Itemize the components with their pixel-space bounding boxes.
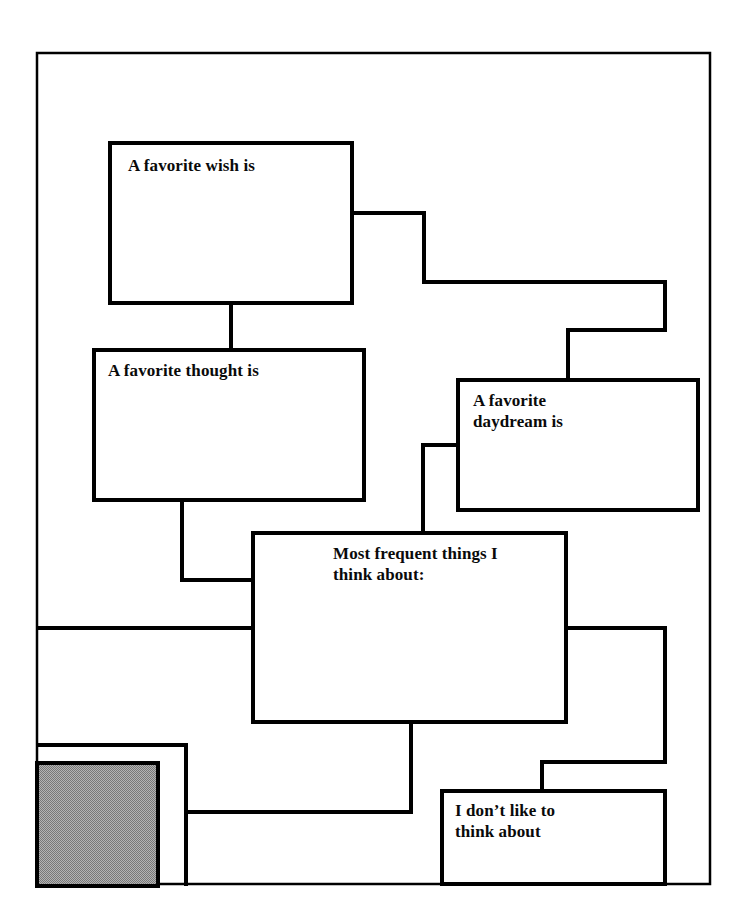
box-favorite-wish[interactable]	[110, 143, 352, 303]
connector-center-to-lower-left	[186, 722, 411, 812]
box-dont-like-to-think-about[interactable]	[442, 791, 665, 884]
connector-thought-to-center	[182, 500, 253, 580]
box-most-frequent-things[interactable]	[253, 533, 566, 722]
connector-daydream-to-center	[423, 445, 458, 533]
box-favorite-thought[interactable]	[94, 350, 364, 500]
worksheet-page: A favorite wish is A favorite thought is…	[0, 0, 746, 923]
box-favorite-daydream[interactable]	[458, 380, 698, 510]
flowchart-diagram	[0, 0, 746, 923]
shaded-panel	[37, 763, 158, 886]
connector-wish-to-daydream	[352, 213, 665, 380]
